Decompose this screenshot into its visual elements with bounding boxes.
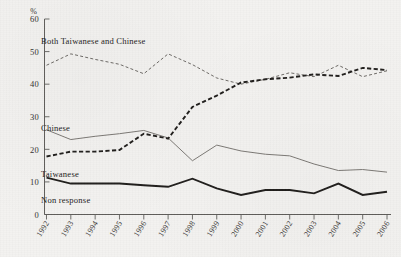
series-line-0 (47, 54, 388, 84)
chart-canvas: 0102030405060 % 199219931994199519961997… (0, 0, 401, 257)
series-annotation-3: Non response (41, 195, 90, 205)
x-tick-label: 1994 (83, 219, 100, 238)
x-tick-label: 2001 (254, 219, 271, 238)
y-axis-tick-labels: 0102030405060 (30, 14, 39, 220)
x-tick-label: 2006 (375, 219, 392, 238)
x-axis-ticks (47, 215, 388, 220)
x-tick-label: 1997 (156, 219, 173, 238)
x-tick-label: 1996 (132, 219, 149, 238)
y-axis-unit-label: % (30, 7, 37, 16)
line-chart-figure: 0102030405060 % 199219931994199519961997… (0, 0, 401, 257)
series-annotation-1: Chinese (41, 123, 70, 133)
x-tick-label: 1992 (35, 219, 52, 238)
series-annotation-0: Both Taiwanese and Chinese (41, 36, 145, 46)
x-tick-label: 1993 (59, 219, 76, 238)
y-tick-label: 40 (30, 79, 39, 89)
x-axis: 1992199319941995199619971998199920002001… (35, 215, 392, 239)
data-series-group (47, 54, 388, 195)
series-line-2 (47, 68, 388, 157)
y-tick-label: 50 (30, 47, 39, 57)
series-line-3 (47, 178, 388, 195)
y-tick-label: 10 (30, 177, 39, 187)
x-tick-label: 2002 (278, 219, 295, 238)
x-tick-label: 2005 (351, 219, 368, 238)
x-tick-label: 2003 (302, 219, 319, 238)
y-tick-label: 0 (34, 210, 39, 220)
series-annotation-2: Taiwanese (41, 169, 79, 179)
y-axis-ticks (45, 19, 50, 215)
series-line-1 (47, 130, 388, 172)
x-tick-label: 1999 (205, 219, 222, 238)
x-tick-label: 2004 (327, 219, 344, 238)
x-axis-tick-labels: 1992199319941995199619971998199920002001… (35, 219, 392, 238)
x-tick-label: 2000 (229, 219, 246, 238)
x-tick-label: 1998 (181, 219, 198, 238)
y-tick-label: 30 (30, 112, 39, 122)
y-tick-label: 20 (30, 145, 39, 155)
x-tick-label: 1995 (108, 219, 125, 238)
